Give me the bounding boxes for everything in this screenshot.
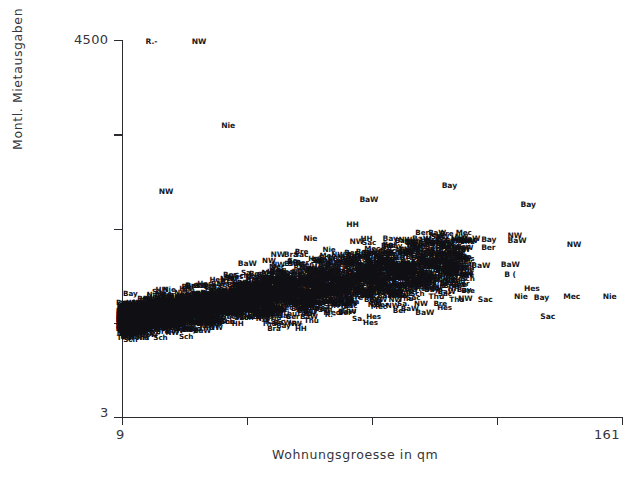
- data-point-label: Mec: [443, 261, 459, 268]
- y-axis-tick: [114, 417, 122, 418]
- data-point-label: Hes: [290, 291, 305, 298]
- data-point-label: Ber: [481, 244, 495, 252]
- data-point-label: B (: [504, 271, 516, 279]
- data-point-label: NW: [140, 310, 154, 317]
- data-point-label: Sa.: [299, 305, 311, 312]
- data-point-label: Hes: [369, 279, 384, 286]
- data-point-label: Bay: [534, 294, 549, 302]
- data-point-label: Sa.: [239, 305, 251, 312]
- data-point-label: Sac: [311, 257, 325, 264]
- data-point-label: Thu: [449, 296, 464, 303]
- data-point-label: Sa.: [345, 297, 357, 304]
- data-point-label: Mec: [563, 293, 580, 301]
- data-point-label: Nie: [322, 246, 335, 253]
- data-point-label: HH: [252, 311, 264, 318]
- data-point-label: Bay: [454, 270, 469, 277]
- y-axis-tick: [114, 40, 122, 41]
- data-point-label: HH: [127, 315, 139, 322]
- data-point-label: Bay: [182, 326, 197, 333]
- data-point-label: BaW: [359, 196, 378, 204]
- data-point-label: Mec: [200, 316, 216, 323]
- data-point-label: BaW: [238, 260, 257, 268]
- data-point-label: Ber: [283, 278, 297, 285]
- y-axis-tick-label-min: 3: [100, 405, 109, 420]
- y-axis-tick: [114, 134, 122, 135]
- data-point-label: Ber: [314, 274, 328, 281]
- data-point-label: R.-: [291, 320, 302, 327]
- x-axis-tick: [247, 417, 248, 425]
- data-point-label: BaW: [350, 274, 368, 281]
- data-point-label: HH: [186, 299, 198, 306]
- data-point-label: Bay: [149, 301, 164, 308]
- x-axis-tick: [622, 417, 623, 425]
- data-point-label: Ber: [286, 313, 300, 320]
- data-point-label: Ber: [456, 280, 470, 287]
- data-point-label: Hes: [237, 295, 252, 302]
- y-axis-tick: [114, 229, 122, 230]
- data-point-label: Sa.: [444, 247, 456, 254]
- data-point-label: Hes: [363, 319, 378, 326]
- data-point-label: Ber: [418, 240, 432, 247]
- data-point-label: BaW: [507, 237, 526, 245]
- data-point-label: Nie: [221, 122, 235, 130]
- data-point-label: Bay: [442, 182, 457, 190]
- data-point-label: Sa.: [266, 275, 278, 282]
- data-point-label: Nie: [380, 247, 393, 254]
- data-point-label: NW: [220, 275, 234, 282]
- data-point-label: NW: [159, 188, 174, 196]
- data-point-label: Hes: [154, 320, 169, 327]
- x-axis-tick: [372, 417, 373, 425]
- data-point-label: Sac: [362, 239, 376, 246]
- data-point-label: Thu: [304, 317, 319, 324]
- data-point-label: Bre: [276, 294, 290, 301]
- data-point-label: Ber: [415, 229, 429, 236]
- data-point-label: Bay: [123, 290, 138, 297]
- data-point-label: NW: [262, 257, 276, 264]
- data-point-label: Bre: [295, 248, 309, 255]
- x-axis-tick-label-min: 9: [116, 427, 125, 442]
- data-point-label: Hes: [218, 288, 233, 295]
- data-point-label: NW: [192, 38, 207, 46]
- data-point-label: HH: [327, 302, 339, 309]
- y-axis-line: [122, 40, 123, 418]
- scatter-plot: Montl. Mietausgaben Wohnungsgroesse in q…: [0, 0, 642, 485]
- y-axis-tick-label-max: 4500: [74, 32, 108, 47]
- x-axis-tick-label-max: 161: [594, 427, 620, 442]
- data-point-label: Nie: [222, 299, 235, 306]
- data-point-label: Bre: [171, 308, 185, 315]
- data-point-label: Bay: [350, 282, 365, 289]
- data-point-label: NW: [424, 258, 438, 265]
- data-point-label: Thu: [341, 307, 356, 314]
- data-point-label: Bre: [364, 249, 378, 256]
- data-point-label: Thu: [399, 246, 414, 253]
- data-point-label: Hes: [437, 304, 452, 311]
- data-point-label: HH: [346, 221, 359, 229]
- data-point-label: Bay: [327, 262, 342, 269]
- data-point-label: Sac: [478, 296, 493, 304]
- data-point-label: Nie: [163, 286, 176, 293]
- data-point-label: NW: [165, 329, 179, 336]
- data-point-label: NW: [567, 241, 582, 249]
- data-point-label: Thu: [427, 283, 442, 290]
- data-point-label: Sa.: [241, 269, 253, 276]
- data-point-label: Nie: [603, 293, 617, 301]
- data-point-label: Bay: [521, 201, 536, 209]
- data-point-label: Nie: [304, 235, 318, 243]
- data-point-label: Nie: [394, 282, 407, 289]
- data-point-label: Mec: [364, 294, 380, 301]
- data-point-label: Sch: [408, 281, 422, 288]
- data-point-label: Nie: [514, 293, 528, 301]
- data-point-label: Bre: [202, 282, 216, 289]
- data-point-label: BaW: [501, 261, 520, 269]
- data-point-label: Bre: [396, 266, 410, 273]
- data-point-label: BaW: [129, 323, 147, 330]
- data-point-label: R.-: [146, 38, 158, 46]
- data-point-label: HH: [265, 289, 277, 296]
- data-point-label: Sac: [540, 313, 555, 321]
- data-point-label: Ber: [412, 264, 426, 271]
- x-axis-tick: [122, 417, 123, 425]
- data-point-label: NW: [348, 255, 362, 262]
- data-point-label: Sa.: [323, 286, 335, 293]
- data-point-label: NW: [414, 300, 428, 307]
- data-point-label: Bra: [267, 325, 281, 332]
